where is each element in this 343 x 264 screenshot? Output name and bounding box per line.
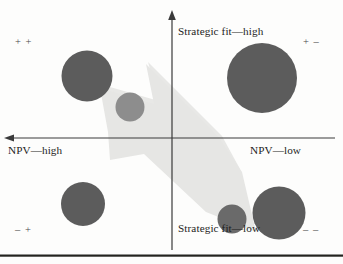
quadrant-sign-top-right: + – (303, 36, 320, 47)
chart-canvas (0, 0, 343, 264)
quadrant-bubble-chart: Strategic fit—high Strategic fit—low NPV… (0, 0, 343, 264)
axis-label-npv-high: NPV—high (8, 144, 62, 156)
bubble-top-right-large (227, 43, 297, 113)
horizontal-axis-arrowhead (4, 134, 14, 141)
bubble-bottom-right (253, 187, 306, 240)
quadrant-sign-bottom-left: – + (15, 224, 32, 235)
bubble-top-left-small (116, 93, 145, 122)
vertical-axis-arrowhead (168, 10, 176, 20)
bottom-rule (0, 255, 343, 257)
axis-label-strategic-fit-high: Strategic fit—high (178, 25, 263, 37)
bubble-top-left-large (62, 51, 113, 102)
axis-label-npv-low: NPV—low (250, 144, 301, 156)
axis-label-strategic-fit-low: Strategic fit—low (178, 222, 260, 234)
bubble-bottom-left (61, 182, 105, 226)
quadrant-sign-bottom-right: – – (303, 224, 319, 235)
quadrant-sign-top-left: + + (15, 36, 32, 47)
